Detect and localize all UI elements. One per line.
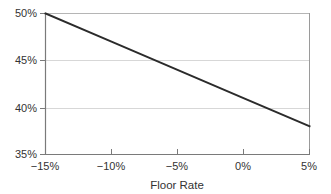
x-axis-title: Floor Rate [150,179,204,191]
x-tick-label-5: 5% [301,160,317,172]
y-tick-label-35: 35% [15,148,37,160]
x-tick-label-0: 0% [235,160,251,172]
x-tick-label-neg5: −5% [166,160,189,172]
line-chart: 50% 45% 40% 35% −15% −10% −5% 0% 5% Floo… [0,0,331,194]
x-tick-label-neg15: −15% [31,160,60,172]
y-tick-label-50: 50% [15,7,37,19]
y-tick-label-40: 40% [15,102,37,114]
plot-area-background [45,13,310,155]
x-tick-label-neg10: −10% [97,160,126,172]
y-tick-label-45: 45% [15,54,37,66]
chart-container: 50% 45% 40% 35% −15% −10% −5% 0% 5% Floo… [0,0,331,194]
y-axis-ticks [40,14,45,155]
